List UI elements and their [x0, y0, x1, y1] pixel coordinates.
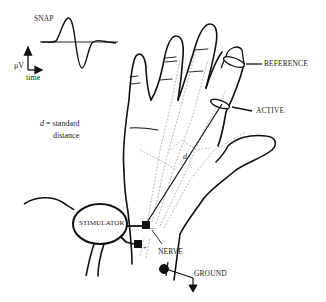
- diagram-drawing: [0, 0, 326, 302]
- snap-title: SNAP: [34, 15, 54, 23]
- stimulator: [24, 198, 144, 276]
- snap-waveform: [40, 18, 118, 68]
- y-axis-label: μV: [14, 62, 24, 70]
- anode-sign: +: [143, 245, 147, 252]
- anode-electrode: [134, 240, 142, 248]
- cathode-electrode: [142, 221, 150, 229]
- reference-electrode: [221, 47, 262, 69]
- nerve-conduction-diagram: SNAP μV time d = standard distance REFER…: [0, 0, 326, 302]
- nerve-label: NERVE: [158, 248, 183, 256]
- distance-marker: d: [183, 153, 187, 161]
- axes-icon: [25, 47, 43, 74]
- stimulator-label: STIMULATOR: [79, 220, 124, 227]
- ground-electrode: [160, 262, 198, 292]
- x-axis-label: time: [26, 74, 40, 82]
- active-label: ACTIVE: [256, 107, 284, 115]
- legend-equals: = standard: [44, 119, 80, 128]
- legend-line-2: distance: [53, 132, 79, 140]
- cathode-sign: −: [151, 226, 155, 233]
- ground-label: GROUND: [194, 270, 227, 278]
- nerve-pathway: [140, 50, 246, 258]
- legend-line-1: d = standard: [40, 120, 80, 128]
- reference-label: REFERENCE: [264, 60, 308, 68]
